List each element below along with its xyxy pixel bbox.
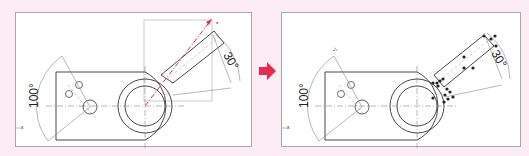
after-sketch: 100° x */ 30° bbox=[282, 13, 522, 148]
angle-label-100: 100° bbox=[27, 83, 41, 108]
before-sketch: 100° x * 30° bbox=[16, 13, 253, 148]
after-drawing-panel: 100° x */ 30° bbox=[281, 12, 521, 147]
right-arrow-icon bbox=[259, 62, 276, 80]
before-drawing-panel: 100° x * 30° bbox=[15, 12, 252, 147]
angle-label-30: 30° bbox=[488, 48, 509, 71]
axis-label-x: x bbox=[21, 124, 24, 130]
axis-label-x: x bbox=[287, 124, 290, 130]
end-marker: * bbox=[216, 21, 219, 27]
angle-label-100: 100° bbox=[297, 83, 311, 108]
top-marker: */ bbox=[332, 47, 339, 54]
